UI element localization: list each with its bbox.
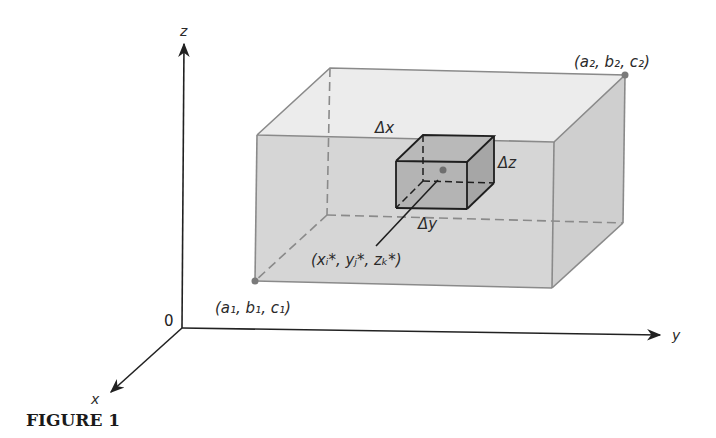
delta-z-label: Δz xyxy=(497,154,517,172)
origin-label: 0 xyxy=(164,312,174,330)
y-axis xyxy=(182,328,660,335)
x-axis-label: x xyxy=(90,391,100,407)
corner-max-point xyxy=(622,72,629,79)
sample-point-label: (xᵢ*, yⱼ*, zₖ*) xyxy=(311,251,402,269)
corner-min-point xyxy=(252,278,259,285)
z-axis-label: z xyxy=(179,23,188,39)
corner-max-label: (a₂, b₂, c₂) xyxy=(574,53,650,71)
delta-y-label: Δy xyxy=(417,215,438,233)
rectangular-box-figure: z y x 0 xyxy=(0,0,716,438)
sample-point xyxy=(440,167,447,174)
delta-x-label: Δx xyxy=(374,119,394,137)
corner-min-label: (a₁, b₁, c₁) xyxy=(215,299,291,317)
x-axis xyxy=(111,328,182,392)
z-axis xyxy=(182,44,184,328)
figure-caption: FIGURE 1 xyxy=(26,410,120,430)
y-axis-label: y xyxy=(671,327,681,343)
